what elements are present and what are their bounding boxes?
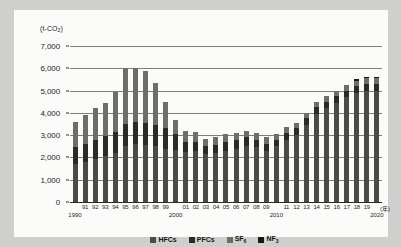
- y-axis-tick-mark: [66, 68, 69, 69]
- bar-slot: [151, 46, 161, 202]
- bar-slot: [110, 46, 120, 202]
- bar-segment-hfcs: [123, 146, 128, 202]
- bar-segment-pfcs: [364, 84, 369, 91]
- bar-segment-pfcs: [314, 107, 319, 114]
- bar: [324, 96, 329, 202]
- bar-segment-sf6: [83, 115, 88, 144]
- bar-segment-pfcs: [203, 146, 208, 154]
- bar-segment-pfcs: [374, 84, 379, 91]
- bar: [173, 120, 178, 202]
- bar-segment-hfcs: [344, 97, 349, 202]
- bar-slot: [301, 46, 311, 202]
- bar-segment-sf6: [213, 137, 218, 145]
- bar: [113, 92, 118, 202]
- bar: [254, 133, 259, 202]
- bar: [73, 122, 78, 202]
- bar-segment-pfcs: [153, 125, 158, 146]
- bar-slot: [201, 46, 211, 202]
- y-axis-tick-mark: [66, 135, 69, 136]
- x-axis-decade-label: 2000: [169, 212, 182, 218]
- bar-segment-sf6: [103, 103, 108, 136]
- bar-slot: [100, 46, 110, 202]
- chart-panel: (t-CO2) 7,0006,0005,0004,0003,0002,0001,…: [14, 10, 388, 237]
- bar-segment-sf6: [173, 120, 178, 134]
- bar-slot: [171, 46, 181, 202]
- bar-segment-pfcs: [93, 140, 98, 159]
- y-axis-tick-label: 6,000: [40, 64, 60, 73]
- bar-segment-pfcs: [284, 133, 289, 140]
- bar-slot: [342, 46, 352, 202]
- bar-slot: [120, 46, 130, 202]
- bar-segment-sf6: [113, 92, 118, 132]
- bar-segment-pfcs: [294, 128, 299, 135]
- bar-segment-sf6: [73, 122, 78, 148]
- bar-segment-hfcs: [143, 145, 148, 202]
- legend-item-sf6: SF6: [227, 235, 247, 244]
- bar-segment-hfcs: [354, 93, 359, 202]
- bar-segment-pfcs: [354, 86, 359, 93]
- bar: [334, 91, 339, 202]
- bar-segment-hfcs: [213, 153, 218, 202]
- legend-label: PFCs: [197, 236, 215, 243]
- bar-slot: [312, 46, 322, 202]
- bar: [193, 132, 198, 202]
- bar-segment-sf6: [123, 68, 128, 124]
- y-axis-labels: 7,0006,0005,0004,0003,0002,0001,0000: [14, 46, 66, 202]
- bar-slot: [251, 46, 261, 202]
- y-axis-tick-label: 4,000: [40, 108, 60, 117]
- legend-swatch: [258, 237, 264, 243]
- bar-segment-pfcs: [274, 140, 279, 147]
- bar-slot: [241, 46, 251, 202]
- bar-segment-hfcs: [244, 146, 249, 202]
- y-axis-tick-label: 3,000: [40, 131, 60, 140]
- plot-area: [70, 46, 382, 202]
- legend-swatch: [227, 237, 233, 243]
- bar-segment-hfcs: [163, 149, 168, 202]
- bar-segment-hfcs: [193, 151, 198, 202]
- bar-segment-hfcs: [93, 159, 98, 202]
- bar-segment-pfcs: [73, 147, 78, 164]
- bar-segment-hfcs: [133, 144, 138, 202]
- bar: [374, 77, 379, 202]
- legend-item-hfcs: HFCs: [150, 236, 176, 243]
- bar-slot: [332, 46, 342, 202]
- y-axis-tick-label: 0: [56, 198, 60, 207]
- bar-segment-sf6: [254, 133, 259, 140]
- bar-segment-hfcs: [173, 150, 178, 202]
- bar-slot: [130, 46, 140, 202]
- legend-label: NF3: [266, 235, 278, 244]
- legend-item-nf3: NF3: [258, 235, 278, 244]
- bar-segment-sf6: [143, 71, 148, 123]
- bar-slot: [140, 46, 150, 202]
- bar: [153, 83, 158, 202]
- bar-segment-hfcs: [364, 91, 369, 202]
- x-axis-line: [70, 202, 382, 203]
- x-axis-decade-label: 2010: [270, 212, 283, 218]
- bar-slot: [322, 46, 332, 202]
- bar-segment-hfcs: [274, 146, 279, 202]
- bar-slot: [372, 46, 382, 202]
- bar: [93, 108, 98, 202]
- bar-segment-hfcs: [304, 125, 309, 202]
- legend-swatch: [150, 237, 156, 243]
- bar-segment-sf6: [133, 68, 138, 121]
- bar-segment-sf6: [203, 139, 208, 147]
- bar-segment-pfcs: [123, 124, 128, 146]
- bar-segment-hfcs: [73, 164, 78, 202]
- bar-segment-hfcs: [294, 135, 299, 202]
- bar-segment-pfcs: [143, 123, 148, 145]
- y-axis-tick-label: 1,000: [40, 175, 60, 184]
- bar-slot: [80, 46, 90, 202]
- bar-segment-sf6: [223, 134, 228, 142]
- bar: [123, 68, 128, 202]
- bar-slot: [90, 46, 100, 202]
- bar-segment-pfcs: [183, 142, 188, 152]
- bar-slot: [352, 46, 362, 202]
- bar-slot: [70, 46, 80, 202]
- bar: [203, 139, 208, 203]
- bar-segment-hfcs: [234, 149, 239, 202]
- bar-segment-hfcs: [284, 140, 289, 202]
- bar-slot: [191, 46, 201, 202]
- bar-segment-sf6: [163, 102, 168, 129]
- bar: [223, 134, 228, 202]
